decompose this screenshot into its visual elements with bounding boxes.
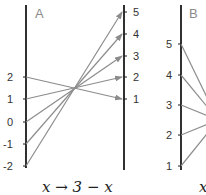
- panel-a-left-ticks: 2 1 0 -1 -2: [3, 71, 26, 172]
- panel-b-ticks: 5 4 3 2 1: [166, 38, 181, 172]
- tick-label: 1: [7, 93, 13, 105]
- tick-label: 4: [166, 69, 172, 81]
- panel-a-right-ticks: 5 4 3 2 1: [124, 6, 139, 105]
- mapping-arrows: [26, 12, 122, 166]
- tick-label: 2: [166, 129, 172, 141]
- panel-b: B 5 4 3 2 1 x: [166, 5, 206, 195]
- panel-a: A 2 1 0 -1 -2 5 4 3 2 1: [3, 5, 139, 195]
- tick-label: 1: [166, 160, 172, 172]
- mapping-diagram: A 2 1 0 -1 -2 5 4 3 2 1: [0, 0, 206, 195]
- tick-label: 5: [166, 38, 172, 50]
- tick-label: -1: [3, 138, 13, 150]
- tick-label: 2: [133, 71, 139, 83]
- tick-label: 0: [7, 116, 13, 128]
- arrow-neg2-to-5: [26, 12, 122, 166]
- tick-label: -2: [3, 160, 13, 172]
- tick-label: 5: [133, 6, 139, 18]
- tick-label: 4: [133, 28, 139, 40]
- panel-b-label: B: [189, 6, 198, 21]
- panel-b-caption: x: [199, 178, 206, 195]
- panel-a-label: A: [35, 6, 44, 21]
- tick-label: 3: [133, 50, 139, 62]
- tick-label: 2: [7, 71, 13, 83]
- panel-a-caption: x → 3 − x: [42, 178, 113, 195]
- tick-label: 1: [133, 93, 139, 105]
- panel-b-lines: [181, 44, 206, 166]
- tick-label: 3: [166, 99, 172, 111]
